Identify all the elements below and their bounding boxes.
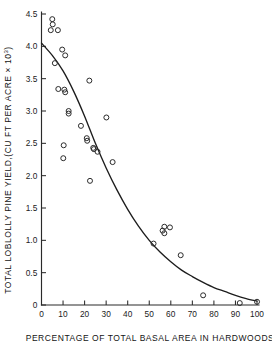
y-axis-title: TOTAL LOBLOLLY PINE YIELD,(CU FT PER ACR… <box>3 46 13 293</box>
y-tick-label: 4.5 <box>26 9 38 19</box>
y-tick-label: 2.5 <box>26 138 38 148</box>
x-tick-label: 90 <box>231 309 241 319</box>
data-point <box>60 47 65 52</box>
data-point <box>61 156 66 161</box>
data-point <box>104 115 109 120</box>
x-tick-label: 80 <box>209 309 219 319</box>
data-point <box>78 123 83 128</box>
data-point <box>61 143 66 148</box>
data-point <box>110 160 115 165</box>
data-point <box>56 87 61 92</box>
data-point <box>87 78 92 83</box>
fitted-curve <box>42 43 258 301</box>
y-tick-label: 1.5 <box>26 203 38 213</box>
y-axis-ticks <box>42 14 47 305</box>
data-point <box>178 253 183 258</box>
data-point <box>87 178 92 183</box>
data-point <box>167 225 172 230</box>
x-axis-tick-labels: 0102030405060708090100 <box>39 309 264 319</box>
data-point <box>50 17 55 22</box>
axis-lines <box>42 12 260 305</box>
x-tick-label: 10 <box>58 309 68 319</box>
x-tick-label: 20 <box>80 309 90 319</box>
x-axis-ticks <box>42 301 258 306</box>
data-points <box>48 17 259 306</box>
x-tick-label: 40 <box>123 309 133 319</box>
y-tick-label: 2.0 <box>26 171 38 181</box>
data-point <box>50 22 55 27</box>
y-tick-label: 0 <box>33 300 38 310</box>
data-point <box>63 53 68 58</box>
y-tick-label: 0.5 <box>26 268 38 278</box>
x-tick-label: 60 <box>166 309 176 319</box>
x-axis-title: PERCENTAGE OF TOTAL BASAL AREA IN HARDWO… <box>26 333 272 343</box>
y-tick-label: 1.0 <box>26 235 38 245</box>
x-tick-label: 50 <box>145 309 155 319</box>
scatter-plot: 00.51.01.52.02.53.03.54.04.5 01020304050… <box>0 0 272 347</box>
y-tick-label: 3.5 <box>26 74 38 84</box>
x-tick-label: 70 <box>188 309 198 319</box>
data-point <box>55 28 60 33</box>
x-tick-label: 0 <box>39 309 44 319</box>
data-point <box>201 293 206 298</box>
x-tick-label: 30 <box>101 309 111 319</box>
data-point <box>48 28 53 33</box>
y-axis-tick-labels: 00.51.01.52.02.53.03.54.04.5 <box>26 9 38 310</box>
y-tick-label: 3.0 <box>26 106 38 116</box>
chart-figure: 00.51.01.52.02.53.03.54.04.5 01020304050… <box>0 0 272 347</box>
x-tick-label: 100 <box>250 309 264 319</box>
y-tick-label: 4.0 <box>26 41 38 51</box>
data-point <box>52 61 57 66</box>
